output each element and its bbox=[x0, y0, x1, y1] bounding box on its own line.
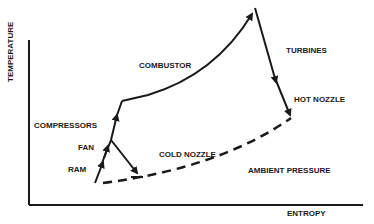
label-combustor: COMBUSTOR bbox=[139, 61, 191, 70]
cold-nozzle-path bbox=[111, 140, 137, 173]
label-hot-nozzle: HOT NOZZLE bbox=[294, 95, 345, 104]
turbine-path bbox=[255, 8, 276, 82]
label-compressors: COMPRESSORS bbox=[34, 121, 97, 130]
label-ram: RAM bbox=[68, 165, 86, 174]
combustor-path bbox=[122, 14, 252, 101]
label-cold-nozzle: COLD NOZZLE bbox=[159, 150, 216, 159]
label-fan: FAN bbox=[78, 143, 94, 152]
fan-path bbox=[104, 146, 108, 158]
hot-nozzle-path bbox=[275, 78, 290, 115]
x-axis-label: ENTROPY bbox=[287, 209, 326, 218]
label-ambient-pressure: AMBIENT PRESSURE bbox=[248, 166, 331, 175]
compressor-path-cont bbox=[116, 101, 122, 118]
compressor-path bbox=[111, 115, 117, 140]
y-axis-label: TEMPERATURE bbox=[6, 22, 15, 82]
ts-diagram bbox=[0, 0, 374, 224]
ram-path bbox=[95, 162, 103, 183]
label-turbines: TURBINES bbox=[286, 46, 327, 55]
